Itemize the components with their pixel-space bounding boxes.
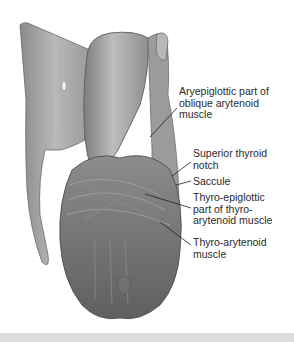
anatomy-figure: Aryepiglottic part of oblique arytenoid … (0, 0, 294, 342)
larynx-illustration (0, 0, 294, 342)
label-saccule: Saccule (193, 176, 230, 188)
bottom-divider-bar (0, 333, 294, 342)
epiglottis (84, 32, 148, 175)
label-aryepiglottic-part: Aryepiglottic part of oblique arytenoid … (179, 86, 269, 121)
label-thyro-arytenoid-muscle: Thyro-arytenoid muscle (193, 237, 267, 260)
thyro-arytenoid-muscle-mass (60, 156, 182, 319)
label-thyro-epiglottic-part: Thyro-epiglottic part of thyro- arytenoi… (193, 192, 272, 227)
label-superior-thyroid-notch: Superior thyroid notch (193, 148, 267, 171)
